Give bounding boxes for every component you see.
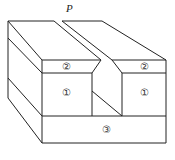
trench xyxy=(92,60,122,116)
left-block-front xyxy=(42,60,101,143)
right-layer2-label: ② xyxy=(140,61,149,72)
right-block-front xyxy=(112,60,166,143)
left-layer1-label: ① xyxy=(62,87,71,98)
left-side-face xyxy=(8,21,42,143)
base-layer3-label: ③ xyxy=(102,124,111,135)
right-layer1-label: ① xyxy=(140,87,149,98)
left-layer2-label: ② xyxy=(62,61,71,72)
point-p-label: P xyxy=(65,2,73,14)
layered-block-diagram: P ② ② ① ① ③ xyxy=(0,0,175,160)
